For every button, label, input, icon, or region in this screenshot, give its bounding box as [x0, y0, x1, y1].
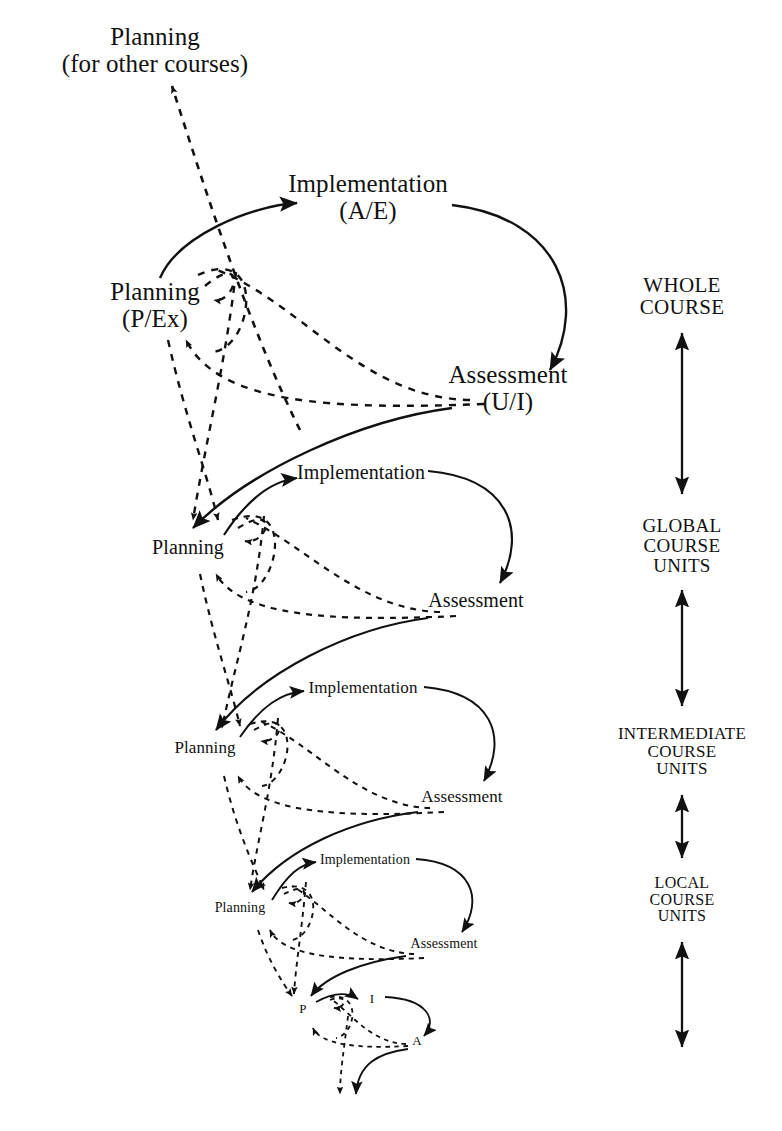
node-implementation-level-3[interactable]: Implementation	[308, 679, 417, 697]
node-assessment-level-4[interactable]: Assessment	[410, 937, 477, 952]
flow-implementation-to-assessment-l2	[428, 471, 512, 583]
feedback-short-loop-planning-l1	[198, 269, 246, 352]
node-assessment-level-4-label: Assessment	[410, 936, 477, 951]
node-external-planning[interactable]: Planning (for other courses)	[62, 24, 249, 77]
feedback-implementation-to-planning-l1	[205, 274, 234, 301]
node-external-planning-sublabel: (for other courses)	[62, 50, 249, 77]
node-assessment-level-5[interactable]: A	[412, 1034, 422, 1048]
node-planning-level-4[interactable]: Planning	[215, 901, 266, 916]
scale-label-local-course-units: LOCAL COURSE UNITS	[650, 875, 715, 925]
flow-planning-to-implementation-l1	[160, 203, 297, 278]
feedback-crossing-down-right-l2	[200, 574, 240, 726]
node-implementation-level-4[interactable]: Implementation	[320, 853, 410, 868]
node-assessment-level-3[interactable]: Assessment	[421, 788, 502, 806]
node-assessment-level-1-sublabel: (U/I)	[448, 388, 567, 415]
feedback-assessment-to-planning-l3	[262, 722, 430, 808]
flow-implementation-to-assessment-l4	[416, 859, 472, 932]
node-implementation-level-3-label: Implementation	[308, 678, 417, 697]
feedback-short-loop-planning-l4	[282, 886, 313, 940]
feedback-assessment-long-to-planning-l5	[313, 1028, 408, 1047]
node-planning-level-3[interactable]: Planning	[174, 739, 235, 757]
flow-planning-to-implementation-l2	[224, 478, 297, 535]
scale-label-whole-course: WHOLE COURSE	[640, 275, 725, 319]
feedback-crossing-down-right-l3	[224, 776, 264, 890]
scale-label-global-course-units: GLOBAL COURSE UNITS	[643, 516, 722, 575]
scale-label-intermediate-course-units: INTERMEDIATE COURSE UNITS	[618, 725, 746, 778]
node-implementation-level-5[interactable]: I	[370, 992, 374, 1006]
spiral-level-4-group	[272, 859, 472, 996]
node-implementation-level-2[interactable]: Implementation	[297, 462, 425, 483]
node-assessment-level-2[interactable]: Assessment	[428, 590, 523, 611]
feedback-short-loop-planning-l5	[330, 997, 353, 1038]
feedback-assessment-long-to-planning-l3	[238, 776, 444, 814]
flow-assessment-exit-downward	[356, 1049, 408, 1094]
feedback-assessment-long-to-planning-l4	[270, 930, 424, 959]
feedback-to-external-planning-group	[172, 86, 300, 430]
node-implementation-level-5-label: I	[370, 991, 374, 1006]
node-planning-level-1-sublabel: (P/Ex)	[110, 305, 200, 332]
node-implementation-level-1-label: Implementation	[288, 170, 448, 197]
flow-implementation-to-assessment-l5	[385, 997, 430, 1036]
feedback-short-loop-planning-l3	[250, 721, 288, 786]
node-implementation-level-1[interactable]: Implementation (A/E)	[288, 171, 448, 224]
flow-implementation-to-assessment-l1	[452, 205, 566, 370]
node-planning-level-1[interactable]: Planning (P/Ex)	[110, 279, 200, 332]
flow-implementation-to-assessment-l3	[424, 687, 494, 781]
node-assessment-level-1[interactable]: Assessment (U/I)	[448, 362, 567, 415]
feedback-arrow-external-planning	[172, 86, 300, 430]
flow-planning-to-implementation-l3	[240, 691, 304, 737]
feedback-assessment-to-planning-l1	[212, 268, 470, 400]
node-implementation-level-4-label: Implementation	[320, 852, 410, 867]
feedback-assessment-to-planning-l2	[246, 518, 440, 612]
node-implementation-level-2-label: Implementation	[297, 461, 425, 483]
node-assessment-level-1-label: Assessment	[448, 361, 567, 388]
node-assessment-level-2-label: Assessment	[428, 589, 523, 611]
node-planning-level-1-label: Planning	[110, 278, 200, 305]
node-implementation-level-1-sublabel: (A/E)	[288, 197, 448, 224]
feedback-crossing-down-right-l4	[258, 930, 292, 996]
feedback-crossing-down-left-l3	[250, 718, 278, 890]
feedback-level-4-group	[258, 882, 424, 996]
node-planning-level-4-label: Planning	[215, 900, 266, 915]
node-planning-level-2-label: Planning	[152, 536, 224, 558]
node-planning-level-2[interactable]: Planning	[152, 537, 224, 558]
flow-assessment-to-next-planning-l2	[216, 618, 428, 730]
flow-assessment-to-next-planning-l4	[311, 956, 406, 996]
node-external-planning-label: Planning	[110, 23, 200, 50]
node-assessment-level-3-label: Assessment	[421, 787, 502, 806]
diagram-root: Planning (for other courses) Planning (P…	[0, 0, 782, 1131]
feedback-assessment-long-to-planning-l2	[216, 574, 456, 618]
feedback-crossing-down-left-l2	[222, 516, 264, 728]
node-assessment-level-5-label: A	[412, 1033, 422, 1048]
node-planning-level-5[interactable]: P	[299, 1002, 306, 1016]
feedback-assessment-to-planning-l5	[332, 1000, 406, 1044]
feedback-exit-downward-l5	[340, 1016, 348, 1094]
node-planning-level-3-label: Planning	[174, 738, 235, 757]
feedback-level-5-group	[313, 997, 408, 1094]
flow-planning-to-implementation-l5	[316, 994, 358, 1002]
node-planning-level-5-label: P	[299, 1001, 306, 1016]
figure-caption-cropped	[0, 1124, 782, 1131]
